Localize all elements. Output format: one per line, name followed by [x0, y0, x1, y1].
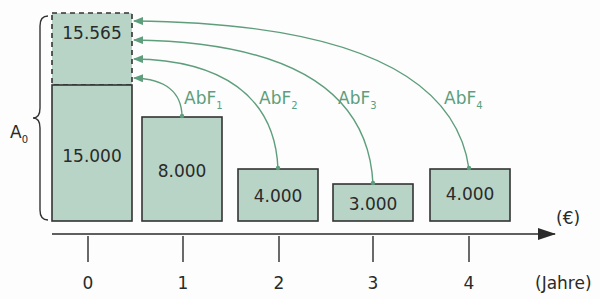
bar-3: 3.000 [333, 184, 413, 221]
tick-label: 1 [178, 273, 189, 293]
bar-2: 4.000 [238, 169, 318, 221]
bar-value: 4.000 [446, 184, 495, 204]
bar-value: 15.000 [62, 146, 121, 166]
bar-value: 4.000 [254, 186, 303, 206]
tick-label: 3 [368, 273, 379, 293]
abf-2-label: AbF2 [259, 88, 298, 111]
bar-4: 4.000 [430, 169, 510, 221]
tick-label: 0 [83, 273, 94, 293]
tick-label: 4 [464, 273, 475, 293]
annuity-diagram: A0 15.565 15.000 8.000 4.000 3.000 4.000… [0, 0, 600, 299]
abf-4-label: AbF4 [444, 88, 483, 111]
brace [33, 16, 48, 220]
bar-0: 15.000 [52, 85, 132, 221]
bar-value: 3.000 [349, 194, 398, 214]
tick-label: 2 [274, 273, 285, 293]
a0-label: A0 [10, 122, 28, 145]
currency-unit-label: (€) [556, 208, 580, 228]
diagram-canvas: A0 15.565 15.000 8.000 4.000 3.000 4.000… [0, 0, 600, 299]
bar-1: 8.000 [142, 117, 222, 221]
abf-3-label: AbF3 [338, 88, 377, 111]
interest-value: 15.565 [62, 23, 121, 43]
arrow-abf-1 [134, 78, 182, 117]
axis-ticks [88, 236, 469, 262]
bar-value: 8.000 [158, 161, 207, 181]
years-unit-label: (Jahre) [535, 273, 592, 293]
abf-1-label: AbF1 [184, 88, 223, 111]
